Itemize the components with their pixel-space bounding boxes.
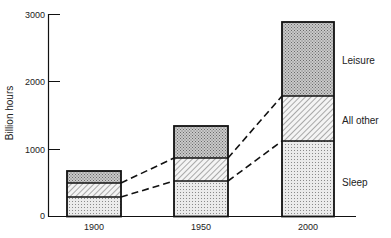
x-tick-labels: 1900 1950 2000 [84, 222, 318, 232]
stacked-bar-chart: Billion hours 3000 2000 1000 0 [0, 0, 391, 238]
connector-other-1950-2000 [228, 96, 282, 158]
segment-sleep [282, 141, 334, 216]
x-tick-label-1900: 1900 [84, 222, 104, 232]
segment-leisure [282, 22, 334, 96]
segment-all-other [282, 96, 334, 141]
connector-sleep-1950-2000 [228, 141, 282, 181]
bar-1950 [174, 126, 228, 217]
connector-other-1900-1950 [121, 158, 174, 183]
segment-all-other [67, 183, 121, 197]
label-sleep: Sleep [342, 177, 368, 188]
series-labels: Leisure All other Sleep [342, 55, 379, 188]
y-tick-labels: 3000 2000 1000 0 [25, 10, 45, 221]
y-tick-label: 1000 [25, 145, 45, 155]
y-tick-label: 2000 [25, 77, 45, 87]
segment-sleep [67, 197, 121, 216]
segment-leisure [67, 171, 121, 183]
y-axis-title: Billion hours [4, 86, 15, 140]
bar-2000 [282, 22, 334, 217]
y-tick-label: 3000 [25, 10, 45, 20]
segment-leisure [174, 126, 228, 158]
label-all-other: All other [342, 115, 379, 126]
y-tick-label: 0 [40, 211, 45, 221]
x-tick-label-1950: 1950 [191, 222, 211, 232]
segment-sleep [174, 181, 228, 216]
label-leisure: Leisure [342, 55, 375, 66]
bar-1900 [67, 171, 121, 217]
x-tick-label-2000: 2000 [298, 222, 318, 232]
connector-sleep-1900-1950 [121, 181, 174, 197]
segment-all-other [174, 158, 228, 181]
